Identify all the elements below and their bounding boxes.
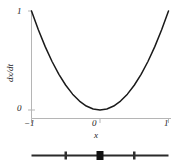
- x-tick-label-1: 1: [164, 119, 169, 128]
- x-tick-label-minus1: −1: [24, 119, 35, 128]
- figure-container: dx/dt 1 0 −1 0 1 x: [0, 0, 178, 165]
- phase-marker-center-fixed-point: [97, 151, 104, 160]
- x-axis-title: x: [94, 131, 98, 140]
- y-axis-title: dx/dt: [4, 52, 16, 94]
- plot-canvas: [0, 0, 178, 165]
- phase-marker-left: [65, 152, 68, 160]
- y-tick-label-0: 0: [17, 104, 22, 113]
- x-tick-label-0: 0: [92, 119, 97, 128]
- curve-dxdt: [32, 11, 169, 110]
- y-axis-title-text: dx/dt: [6, 64, 15, 82]
- y-tick-label-1: 1: [17, 7, 22, 16]
- phase-marker-right: [133, 152, 136, 160]
